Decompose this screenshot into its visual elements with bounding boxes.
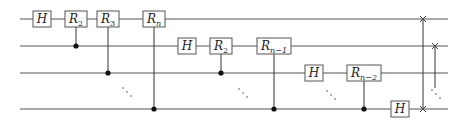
hadamard-gate: H [178, 38, 196, 54]
control-dot [218, 70, 223, 75]
control-dot [105, 70, 110, 75]
rotation-gate: R2 [210, 38, 232, 55]
ddots-icon [126, 91, 128, 93]
hadamard-gate: H [33, 11, 51, 27]
ddots-icon [435, 93, 437, 95]
qubit-wires [20, 19, 448, 109]
rotation-gate: Rn−1 [257, 38, 291, 55]
rotation-gate: R3 [97, 11, 119, 28]
ddots-icon [431, 89, 433, 91]
ddots-icon [122, 87, 124, 89]
control-dot [271, 106, 276, 111]
ddots-icon [242, 92, 244, 94]
rotation-gate: Rn [143, 11, 165, 28]
ddots-icon [326, 90, 328, 92]
hadamard-gate: H [391, 101, 409, 117]
rotation-gate: R2 [65, 11, 87, 28]
swap-gates [420, 16, 438, 112]
gate-label: H [181, 39, 193, 53]
control-dot [361, 106, 366, 111]
ddots-icon [238, 88, 240, 90]
quantum-circuit-diagram: HR2R3RnHR2Rn−1HRn−2H [0, 0, 468, 123]
ddots-icon [246, 96, 248, 98]
ddots-icon [334, 98, 336, 100]
ellipsis-dots [122, 87, 441, 100]
gate-label: H [308, 66, 320, 80]
control-dot [73, 43, 78, 48]
rotation-gate: Rn−2 [347, 65, 381, 82]
ddots-icon [439, 97, 441, 99]
gate-label: H [36, 12, 48, 26]
control-dot [151, 106, 156, 111]
hadamard-gate: H [305, 65, 323, 81]
ddots-icon [330, 94, 332, 96]
ddots-icon [130, 95, 132, 97]
gate-label: H [394, 102, 406, 116]
